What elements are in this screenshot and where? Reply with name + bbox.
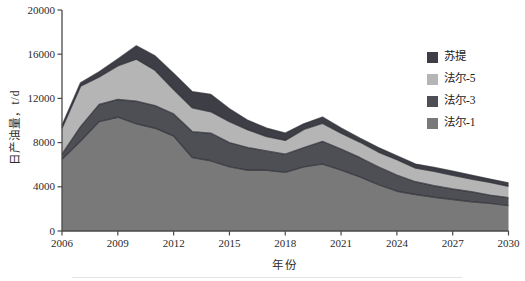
legend-item-faer-3: 法尔-3 [427, 94, 476, 108]
legend-label-suti: 苏提 [444, 51, 466, 63]
x-tick-label: 2018 [274, 237, 297, 249]
figure-daily-oil-production-forecast: 0400080001200016000200002006200920122015… [0, 0, 525, 281]
legend-item-faer-5: 法尔-5 [427, 72, 476, 86]
scan-artifact-line [72, 277, 462, 278]
y-tick-label: 8000 [33, 136, 56, 148]
legend-swatch-faer-5 [427, 74, 438, 85]
x-tick-label: 2006 [51, 237, 74, 249]
y-tick-label: 0 [50, 225, 56, 237]
stacked-area-chart: 0400080001200016000200002006200920122015… [0, 0, 525, 281]
x-tick-label: 2009 [107, 237, 130, 249]
y-axis-title: 日产油量，t/d [6, 71, 22, 183]
legend-label-faer-3: 法尔-3 [444, 95, 476, 107]
y-tick-label: 20000 [28, 4, 56, 16]
legend-swatch-faer-3 [427, 96, 438, 107]
legend-label-faer-1: 法尔-1 [444, 117, 476, 129]
legend-swatch-faer-1 [427, 118, 438, 129]
x-tick-label: 2027 [442, 237, 465, 249]
legend: 苏提法尔-5法尔-3法尔-1 [427, 50, 476, 138]
legend-swatch-suti [427, 52, 438, 63]
y-tick-label: 4000 [33, 180, 56, 192]
x-tick-label: 2021 [330, 237, 352, 249]
legend-item-faer-1: 法尔-1 [427, 116, 476, 130]
x-tick-label: 2030 [498, 237, 521, 249]
x-tick-label: 2015 [218, 237, 241, 249]
x-axis-title: 年份 [235, 256, 335, 272]
legend-item-suti: 苏提 [427, 50, 476, 64]
y-tick-label: 16000 [28, 48, 56, 60]
legend-label-faer-5: 法尔-5 [444, 73, 476, 85]
x-tick-label: 2024 [386, 237, 409, 249]
x-tick-label: 2012 [163, 237, 185, 249]
y-tick-label: 12000 [28, 92, 56, 104]
